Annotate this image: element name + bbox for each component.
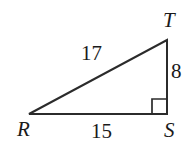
geometry-figure: T R S 17 8 15 xyxy=(0,0,194,156)
vertex-label-s: S xyxy=(164,120,175,141)
right-angle-marker xyxy=(152,99,167,114)
side-length-leg-rs: 15 xyxy=(91,121,112,142)
vertex-label-r: R xyxy=(17,119,30,140)
vertex-label-t: T xyxy=(163,10,175,31)
side-length-hypotenuse-rt: 17 xyxy=(81,43,102,64)
side-length-leg-ts: 8 xyxy=(171,61,182,82)
